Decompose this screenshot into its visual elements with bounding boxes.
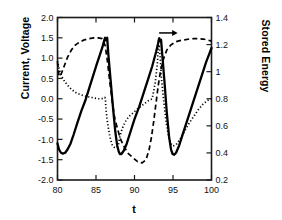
y-tick-label-left: 1.5: [41, 33, 54, 43]
figure-container: 80859095100-2.0-1.5-1.0-0.50.00.51.01.52…: [0, 0, 282, 220]
y-tick-label-right: 1.2: [216, 40, 229, 50]
y-tick-label-right: 1.4: [216, 13, 229, 23]
x-tick-label: 90: [129, 185, 139, 195]
y-axis-title-right: Stored Energy: [260, 0, 272, 116]
series-stored-energy: [58, 45, 212, 148]
curve-layer: [58, 38, 212, 163]
x-tick-label: 95: [168, 185, 178, 195]
y-tick-label-right: 0.8: [216, 94, 229, 104]
annotation-layer: [159, 30, 177, 36]
plot-frame: [58, 18, 212, 181]
x-tick-label: 80: [52, 185, 62, 195]
y-tick-label-right: 1: [216, 67, 221, 77]
y-tick-label-left: -1.0: [38, 135, 54, 145]
series-voltage: [58, 38, 212, 163]
y-tick-label-left: 0.0: [41, 94, 54, 104]
y-tick-label-left: -1.5: [38, 155, 54, 165]
y-tick-label-right: 0.2: [216, 175, 229, 185]
y-tick-label-left: 1.0: [41, 53, 54, 63]
y-tick-label-left: 2.0: [41, 13, 54, 23]
series-current: [58, 38, 212, 155]
tick-layer: [58, 18, 212, 181]
y-tick-label-left: -0.5: [38, 114, 54, 124]
y-tick-label-right: 0.4: [216, 148, 229, 158]
x-tick-label: 85: [91, 185, 101, 195]
chart-plot: 80859095100-2.0-1.5-1.0-0.50.00.51.01.52…: [0, 0, 282, 220]
y-axis-title-left: Current, Voltage: [19, 0, 31, 118]
y-tick-label-right: 0.6: [216, 121, 229, 131]
x-tick-label: 100: [204, 185, 219, 195]
right-axis-arrow-head: [172, 30, 178, 36]
x-axis-title: t: [132, 203, 136, 215]
tick-label-layer: 80859095100-2.0-1.5-1.0-0.50.00.51.01.52…: [38, 13, 228, 195]
y-tick-label-left: 0.5: [41, 74, 54, 84]
y-tick-label-left: -2.0: [38, 175, 54, 185]
